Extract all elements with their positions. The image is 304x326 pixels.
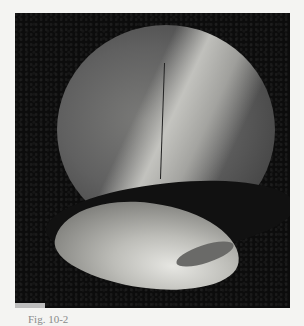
figure-caption: Fig. 10-2 (28, 312, 298, 326)
tissue-fissure-line (160, 63, 165, 178)
figure-image (15, 13, 290, 308)
corner-artifact (15, 303, 45, 308)
